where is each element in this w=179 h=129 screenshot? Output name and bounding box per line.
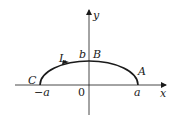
origin-label: 0 (78, 86, 85, 99)
point-label-B: B (92, 48, 101, 61)
tick-label-neg-a: −a (34, 86, 50, 99)
y-axis-label: y (92, 9, 100, 22)
tick-label-b: b (79, 48, 86, 61)
curve-label-L: L (58, 52, 66, 65)
x-axis-label: x (160, 87, 167, 100)
point-label-A: A (137, 65, 146, 78)
tick-label-a: a (134, 86, 141, 99)
point-label-C: C (28, 74, 37, 87)
diagram-canvas: y x 0 −a a b B A C L (0, 0, 179, 129)
